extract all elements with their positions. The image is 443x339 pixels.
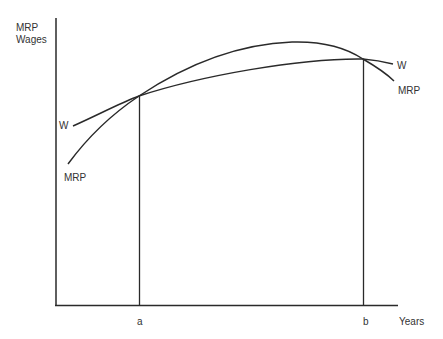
w-curve	[73, 59, 393, 126]
mrp-label-left: MRP	[64, 172, 86, 184]
mrp-curve	[68, 42, 394, 164]
w-label-left: W	[59, 120, 68, 132]
mrp-label-right: MRP	[398, 85, 420, 97]
diagram-canvas	[0, 0, 443, 339]
w-label-right: W	[397, 60, 406, 72]
y-axis-label-mrp: MRP	[16, 22, 38, 34]
x-tick-a: a	[137, 316, 143, 328]
x-axis-label-years: Years	[399, 316, 424, 328]
y-axis-label-wages: Wages	[16, 34, 47, 46]
x-tick-b: b	[363, 316, 369, 328]
